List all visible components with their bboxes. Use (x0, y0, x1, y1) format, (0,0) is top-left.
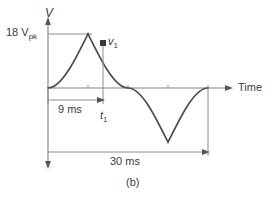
peak-voltage-label: 18 Vpk (6, 27, 37, 41)
waveform-figure: V 18 Vpk v1 Time 9 ms t1 30 ms (b) (0, 0, 274, 199)
t1-label: t1 (100, 110, 107, 124)
y-axis-label: V (45, 7, 53, 19)
nine-ms-arrow (97, 97, 105, 103)
v1-label: v1 (108, 36, 118, 50)
figure-caption: (b) (126, 177, 139, 188)
v1-label-subscript: 1 (114, 41, 118, 50)
nine-ms-dimension (48, 88, 105, 104)
y-axis-arrow-down (45, 161, 51, 169)
t1-label-subscript: 1 (103, 115, 107, 124)
thirty-ms-dimension (48, 88, 210, 156)
peak-voltage-value: 18 V (6, 26, 29, 38)
thirty-ms-arrow (202, 149, 210, 155)
x-axis-label: Time (238, 82, 262, 93)
v1-marker-dot (100, 40, 106, 46)
nine-ms-label: 9 ms (58, 104, 82, 115)
sine-waveform-plot (0, 0, 274, 199)
x-axis-arrow-right (225, 85, 233, 91)
peak-voltage-subscript: pk (29, 32, 37, 41)
thirty-ms-label: 30 ms (110, 156, 140, 167)
